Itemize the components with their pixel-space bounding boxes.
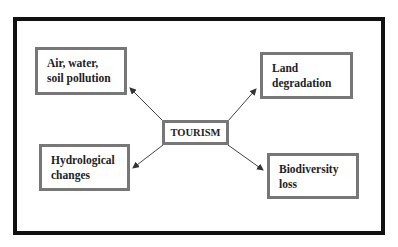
- impact-box-air-water-soil-pollution: Air, water, soil pollution: [35, 47, 127, 95]
- arrow-to-hydro: [133, 145, 163, 168]
- impact-box-land-degradation: Land degradation: [260, 52, 353, 99]
- arrow-to-bio: [228, 145, 263, 170]
- impact-label-line: Land: [272, 61, 350, 76]
- center-node-tourism: TOURISM: [162, 120, 229, 145]
- impact-label-line: Biodiversity: [279, 162, 356, 177]
- impact-box-biodiversity-loss: Biodiversity loss: [267, 153, 359, 199]
- impact-label-line: loss: [279, 177, 356, 192]
- arrow-to-land: [228, 89, 256, 121]
- impact-label-line: Air, water,: [47, 56, 124, 71]
- arrow-to-air: [130, 88, 163, 121]
- impact-label-line: Hydrological: [51, 153, 127, 168]
- impact-label-line: changes: [51, 168, 127, 183]
- impact-box-hydrological-changes: Hydrological changes: [39, 144, 130, 191]
- impact-label-line: degradation: [272, 76, 350, 91]
- center-node-label: TOURISM: [171, 127, 221, 138]
- impact-label-line: soil pollution: [47, 71, 124, 86]
